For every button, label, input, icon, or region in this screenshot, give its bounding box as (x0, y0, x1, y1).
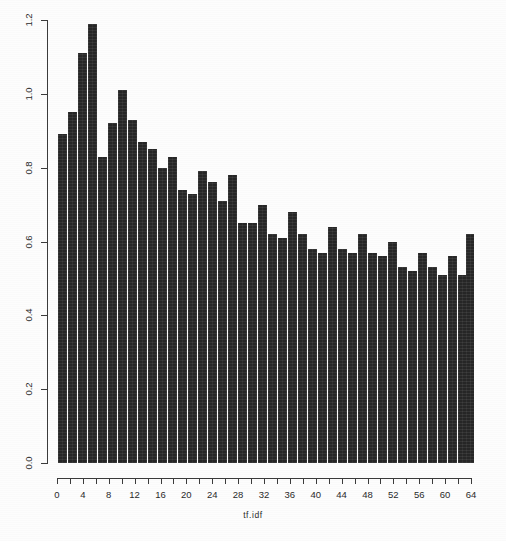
x-axis-tick (135, 478, 136, 484)
x-axis-tick (471, 478, 472, 484)
x-axis-minor-tick (329, 478, 330, 484)
x-axis-tick (264, 478, 265, 484)
bar (288, 212, 297, 463)
bar-series (0, 0, 506, 541)
bar (368, 253, 377, 463)
bar (138, 142, 147, 463)
bar (408, 271, 417, 463)
bar (428, 267, 437, 463)
bar (248, 223, 257, 463)
bar (298, 234, 307, 463)
bar (466, 234, 474, 463)
x-axis-title: tf.idf (0, 510, 506, 520)
x-axis-tick-label: 56 (405, 489, 433, 500)
x-axis-tick-label: 40 (302, 489, 330, 500)
bar (438, 275, 447, 463)
x-axis-tick-label: 12 (121, 489, 149, 500)
x-axis-minor-tick (277, 478, 278, 484)
x-axis-tick-label: 48 (354, 489, 382, 500)
x-axis-tick (316, 478, 317, 484)
bar (228, 175, 237, 463)
x-axis-minor-tick (225, 478, 226, 484)
bar (118, 90, 127, 463)
x-axis-tick-label: 32 (250, 489, 278, 500)
x-axis-tick-label: 52 (379, 489, 407, 500)
bar (398, 267, 407, 463)
x-axis-tick-label: 24 (198, 489, 226, 500)
x-axis-tick (342, 478, 343, 484)
x-axis-minor-tick (122, 478, 123, 484)
x-axis-tick (212, 478, 213, 484)
bar (268, 234, 277, 463)
x-axis-minor-tick (432, 478, 433, 484)
bar (278, 238, 287, 463)
plot-area: 1.21.00.80.60.40.20.0 048121620242832364… (0, 0, 506, 541)
x-axis-tick (393, 478, 394, 484)
bar (98, 157, 107, 463)
bar (338, 249, 347, 463)
bar (258, 205, 267, 463)
x-axis-tick-label: 64 (457, 489, 485, 500)
bar (318, 253, 327, 463)
bar (158, 168, 167, 463)
x-axis-tick (83, 478, 84, 484)
x-axis-tick-label: 20 (172, 489, 200, 500)
x-axis-minor-tick (406, 478, 407, 484)
x-axis-tick (290, 478, 291, 484)
bar (68, 112, 77, 463)
x-axis-tick (419, 478, 420, 484)
x-axis-minor-tick (458, 478, 459, 484)
bar (348, 253, 357, 463)
x-axis-tick (57, 478, 58, 484)
x-axis-minor-tick (199, 478, 200, 484)
bar (378, 256, 387, 463)
bar (238, 223, 247, 463)
x-axis-minor-tick (355, 478, 356, 484)
x-axis-minor-tick (303, 478, 304, 484)
x-axis-tick-label: 8 (95, 489, 123, 500)
bar (58, 134, 67, 463)
x-axis-tick (445, 478, 446, 484)
x-axis-tick (368, 478, 369, 484)
x-axis-minor-tick (380, 478, 381, 484)
bar (328, 227, 337, 463)
x-axis-tick-label: 0 (43, 489, 71, 500)
x-axis-tick (109, 478, 110, 484)
x-axis-tick (186, 478, 187, 484)
bar (148, 149, 157, 463)
bar (128, 120, 137, 463)
x-axis-minor-tick (96, 478, 97, 484)
bar (168, 157, 177, 463)
x-axis-minor-tick (70, 478, 71, 484)
bar (358, 234, 367, 463)
bar (218, 201, 227, 463)
bar (178, 190, 187, 463)
x-axis-tick (238, 478, 239, 484)
bar (418, 253, 427, 463)
x-axis-tick-label: 28 (224, 489, 252, 500)
x-axis-minor-tick (251, 478, 252, 484)
x-axis-tick-label: 44 (328, 489, 356, 500)
x-axis-minor-tick (173, 478, 174, 484)
x-axis-tick (161, 478, 162, 484)
bar (388, 242, 397, 464)
x-axis-tick-label: 60 (431, 489, 459, 500)
bar (108, 123, 117, 463)
bar (208, 182, 217, 463)
bar (188, 194, 197, 463)
bar (88, 24, 97, 463)
figure-canvas: 1.21.00.80.60.40.20.0 048121620242832364… (0, 0, 506, 541)
x-axis-minor-tick (148, 478, 149, 484)
x-axis-tick-label: 16 (147, 489, 175, 500)
bar (448, 256, 457, 463)
x-axis-tick-label: 36 (276, 489, 304, 500)
x-axis-tick-label: 4 (69, 489, 97, 500)
bar (78, 53, 87, 463)
bar (308, 249, 317, 463)
bar (198, 171, 207, 463)
